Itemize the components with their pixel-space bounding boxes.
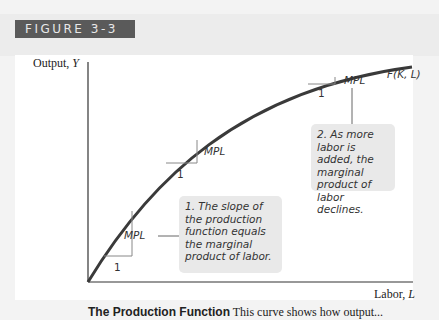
mpl-label-3: MPL	[344, 74, 365, 86]
mpl-label-1: MPL	[124, 229, 145, 241]
annotation-slope-equals-mpl: 1. The slope of the production function …	[179, 196, 282, 273]
figure-caption: The Production Function This curve shows…	[88, 305, 383, 320]
run-label-1: 1	[114, 261, 121, 273]
mpl-label-2: MPL	[204, 145, 225, 157]
curve-label: F(K̄, L)	[387, 68, 421, 80]
y-axis-label: Output, Y	[33, 56, 79, 71]
run-label-3: 1	[318, 87, 325, 99]
x-axis-label: Labor, L	[374, 287, 415, 302]
run-label-2: 1	[177, 168, 184, 180]
annotation-mpl-declines: 2. As more labor is added, the marginal …	[311, 124, 395, 191]
